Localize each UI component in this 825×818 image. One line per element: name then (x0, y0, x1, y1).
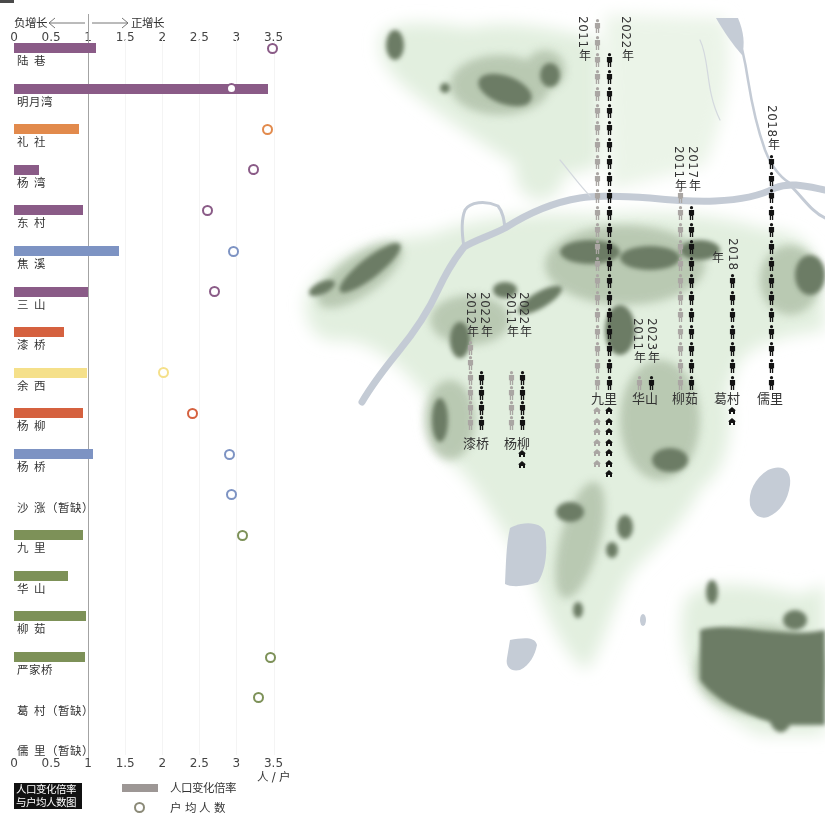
village-label: 杨 湾 (17, 176, 46, 190)
household-size-marker (224, 449, 235, 460)
person-icon (594, 274, 601, 288)
household-size-marker (237, 530, 248, 541)
house-icon (593, 418, 601, 425)
house-icon (518, 461, 526, 468)
year-label-after: 2022年 (619, 16, 632, 61)
person-icon (594, 138, 601, 152)
person-icon (594, 189, 601, 203)
year-label-before: 2011年 (672, 146, 685, 191)
person-icon (768, 359, 775, 373)
population-pictogram-after (478, 371, 485, 430)
person-icon (467, 416, 474, 430)
village-label: 礼 社 (17, 135, 46, 149)
village-label: 华 山 (17, 582, 46, 596)
person-icon (594, 206, 601, 220)
population-change-bar (14, 530, 83, 540)
person-icon (677, 291, 684, 305)
person-icon (606, 257, 613, 271)
person-icon (677, 206, 684, 220)
person-icon (729, 325, 736, 339)
person-icon (594, 257, 601, 271)
person-icon (729, 308, 736, 322)
house-icon (593, 407, 601, 414)
village-label: 柳 茹 (17, 622, 46, 636)
village-label: 严家桥 (17, 663, 53, 677)
axis-tick-label: 3 (221, 756, 251, 770)
chart-row: 葛 村（暂缺） (0, 693, 300, 723)
person-icon (594, 19, 601, 33)
person-icon (677, 359, 684, 373)
person-icon (688, 376, 695, 390)
person-icon (594, 291, 601, 305)
chart-row: 陆 巷 (0, 43, 300, 73)
person-icon (594, 87, 601, 101)
person-icon (688, 206, 695, 220)
person-icon (478, 386, 485, 400)
person-icon (729, 376, 736, 390)
person-icon (606, 70, 613, 84)
person-icon (478, 401, 485, 415)
person-icon (677, 257, 684, 271)
household-size-marker (202, 205, 213, 216)
person-icon (478, 416, 485, 430)
person-icon (594, 342, 601, 356)
person-icon (606, 121, 613, 135)
person-icon (648, 376, 655, 390)
population-change-bar (14, 124, 79, 134)
year-label-before: 2011年 (631, 318, 644, 363)
household-size-marker (228, 246, 239, 257)
village-label: 明月湾 (17, 95, 53, 109)
person-icon (594, 53, 601, 67)
house-icon (605, 460, 613, 467)
chart-row: 杨 柳 (0, 408, 300, 438)
person-icon (688, 359, 695, 373)
person-icon (606, 87, 613, 101)
year-label: 2018年 (765, 105, 778, 150)
person-icon (519, 386, 526, 400)
person-icon (636, 376, 643, 390)
top-axis: 00.511.522.533.5 (0, 30, 300, 44)
axis-tick-label: 2.5 (184, 756, 214, 770)
population-pictogram-before (594, 19, 601, 390)
population-pictogram-after (648, 376, 655, 390)
population-change-bar (14, 368, 87, 378)
person-icon (594, 70, 601, 84)
household-size-marker (265, 652, 276, 663)
chart-row: 漆 桥 (0, 327, 300, 357)
village-name: 漆桥 (460, 436, 492, 451)
household-size-marker (267, 43, 278, 54)
chart-row: 九 里 (0, 530, 300, 560)
person-icon (768, 155, 775, 169)
population-pictogram-after (606, 53, 613, 390)
person-icon (594, 359, 601, 373)
positive-growth-label: 正增长 (131, 16, 164, 30)
population-change-bar (14, 652, 85, 662)
year-label: 2018 (726, 238, 739, 271)
chart-row: 严家桥 (0, 652, 300, 682)
population-pictogram (729, 274, 736, 390)
axis-tick-label: 0 (0, 756, 29, 770)
year-label-before: 2011年 (504, 292, 517, 337)
person-icon (729, 359, 736, 373)
population-pictogram-after (688, 206, 695, 390)
axis-tick-label: 3.5 (259, 756, 289, 770)
person-icon (519, 401, 526, 415)
person-icon (606, 308, 613, 322)
house-icon (605, 470, 613, 477)
chart-row: 礼 社 (0, 124, 300, 154)
village-name: 柳茹 (669, 391, 701, 406)
population-pictogram-before (636, 376, 643, 390)
person-icon (768, 206, 775, 220)
person-icon (594, 223, 601, 237)
person-icon (688, 308, 695, 322)
population-change-bar (14, 205, 83, 215)
person-icon (688, 223, 695, 237)
house-icon (605, 439, 613, 446)
population-change-bar (14, 611, 86, 621)
person-icon (768, 223, 775, 237)
person-icon (606, 291, 613, 305)
population-change-bar (14, 287, 88, 297)
person-icon (594, 104, 601, 118)
legend-circle-icon (134, 802, 145, 813)
population-pictogram-after (519, 371, 526, 430)
